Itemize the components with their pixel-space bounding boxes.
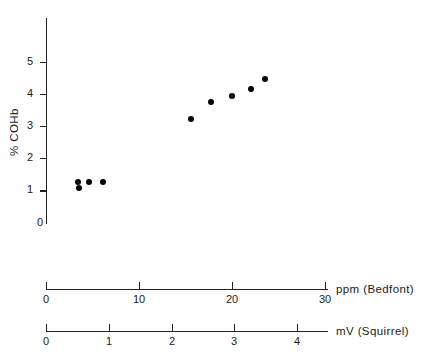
x-ticklabel-ppm-30: 30: [319, 294, 331, 305]
y-tick-4: [40, 94, 47, 95]
x-axis-secondary-line: [46, 331, 328, 332]
y-tick-1: [40, 190, 47, 191]
data-point: [262, 76, 268, 82]
y-axis-line: [46, 18, 47, 224]
x-tick-ppm-0: [46, 282, 47, 290]
plot-area: % COHb 5 4 3 2 1 0 0 10 20 30 ppm (Bedfo…: [0, 0, 423, 360]
y-tick-2: [40, 158, 47, 159]
x-axis-primary-line: [46, 289, 328, 290]
x-axis-secondary-label: mV (Squirrel): [336, 325, 409, 337]
x-tick-ppm-30: [325, 282, 326, 290]
x-tick-mv-0: [46, 324, 47, 332]
x-tick-mv-2: [172, 324, 173, 332]
y-ticklabel-1: 1: [27, 184, 33, 195]
x-tick-mv-1: [109, 324, 110, 332]
x-ticklabel-mv-1: 1: [106, 336, 112, 347]
data-point: [75, 179, 81, 185]
y-axis-label: % COHb: [8, 66, 20, 156]
x-ticklabel-mv-3: 3: [231, 336, 237, 347]
data-point: [208, 99, 214, 105]
data-point: [76, 185, 82, 191]
x-ticklabel-mv-2: 2: [169, 336, 175, 347]
data-point: [100, 179, 106, 185]
x-tick-mv-4: [297, 324, 298, 332]
x-ticklabel-ppm-0: 0: [43, 294, 49, 305]
y-ticklabel-2: 2: [27, 152, 33, 163]
data-point: [248, 86, 254, 92]
x-tick-ppm-10: [139, 282, 140, 290]
y-tick-3: [40, 126, 47, 127]
x-ticklabel-mv-0: 0: [43, 336, 49, 347]
x-ticklabel-ppm-20: 20: [226, 294, 238, 305]
data-point: [229, 93, 235, 99]
x-tick-ppm-20: [232, 282, 233, 290]
y-ticklabel-0: 0: [37, 217, 43, 228]
x-axis-primary-label: ppm (Bedfont): [336, 283, 414, 295]
data-point: [86, 179, 92, 185]
scatter-chart-figure: % COHb 5 4 3 2 1 0 0 10 20 30 ppm (Bedfo…: [0, 0, 423, 360]
x-tick-mv-3: [234, 324, 235, 332]
y-tick-5: [40, 62, 47, 63]
x-ticklabel-ppm-10: 10: [133, 294, 145, 305]
y-ticklabel-4: 4: [27, 88, 33, 99]
x-ticklabel-mv-4: 4: [294, 336, 300, 347]
data-point: [188, 116, 194, 122]
y-ticklabel-3: 3: [27, 120, 33, 131]
y-ticklabel-5: 5: [27, 56, 33, 67]
